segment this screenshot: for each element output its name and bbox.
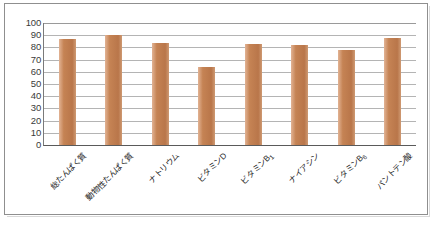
x-axis: 総たんぱく質動物性たんぱく質ナトリウムビタミンDビタミンB1ナイアシンビタミンB…	[43, 147, 415, 213]
chart-frame: 1009080706050403020100 総たんぱく質動物性たんぱく質ナトリ…	[4, 3, 428, 215]
y-axis-tick-label: 0	[7, 140, 41, 150]
y-axis-tick-label: 80	[7, 43, 41, 53]
x-axis-tick-label: ナイアシン	[285, 149, 321, 185]
x-axis-tick-label: ナトリウム	[145, 149, 181, 185]
bar	[198, 67, 215, 145]
y-axis-tick-label: 90	[7, 30, 41, 40]
y-axis: 1009080706050403020100	[5, 23, 41, 145]
bar	[105, 35, 122, 145]
x-axis-tick-label: 総たんぱく質	[47, 149, 89, 191]
y-axis-tick-label: 70	[7, 55, 41, 65]
y-axis-tick-label: 20	[7, 116, 41, 126]
y-axis-tick-label: 50	[7, 79, 41, 89]
y-axis-tick-label: 30	[7, 104, 41, 114]
bar	[59, 39, 76, 145]
x-axis-tick-label: ビタミンD	[193, 149, 228, 184]
y-axis-tick-label: 100	[7, 18, 41, 28]
bar	[291, 45, 308, 145]
x-axis-tick-label: ビタミンB6	[331, 149, 368, 186]
bar	[152, 43, 169, 145]
x-axis-tick-label: パントテン酸	[372, 149, 414, 191]
x-axis-tick-label: ビタミンB1	[238, 149, 275, 186]
bar	[245, 44, 262, 145]
y-axis-tick-label: 60	[7, 67, 41, 77]
bar	[338, 50, 355, 145]
x-axis-tick-label: 動物性たんぱく質	[82, 149, 135, 202]
bar	[384, 38, 401, 145]
y-axis-tick-label: 10	[7, 128, 41, 138]
plot-box	[43, 23, 416, 146]
y-axis-tick-label: 40	[7, 91, 41, 101]
bar-series	[44, 23, 416, 145]
chart-plot-area: 1009080706050403020100 総たんぱく質動物性たんぱく質ナトリ…	[5, 4, 427, 214]
